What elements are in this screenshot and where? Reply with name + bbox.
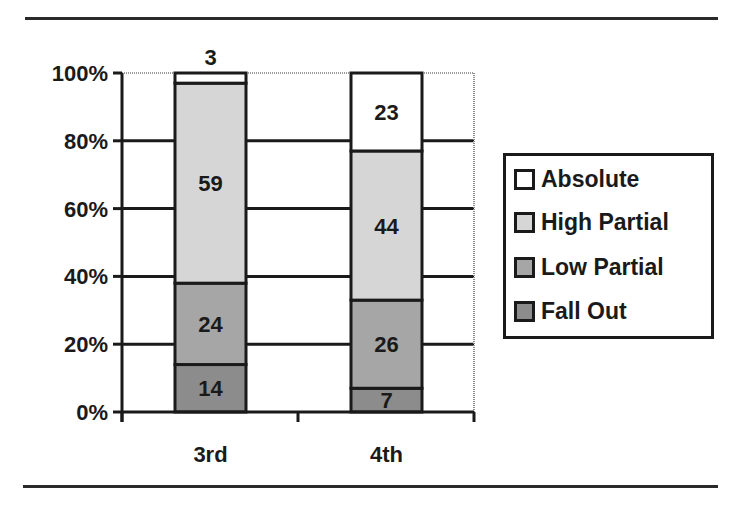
legend-swatch-fall-out	[514, 301, 535, 322]
value-label: 7	[380, 388, 392, 413]
y-tick-label: 40%	[64, 264, 108, 289]
legend-item-absolute: Absolute	[514, 164, 639, 194]
legend-label: Fall Out	[541, 298, 627, 325]
legend-swatch-absolute	[514, 169, 535, 190]
value-label: 26	[374, 332, 398, 357]
y-tick-label: 20%	[64, 332, 108, 357]
x-tick-label: 3rd	[193, 442, 227, 467]
y-tick-label: 0%	[76, 400, 108, 425]
bars: 14245937264423	[175, 45, 422, 413]
value-label: 59	[198, 171, 222, 196]
value-label: 23	[374, 100, 398, 125]
legend: Absolute High Partial Low Partial Fall O…	[503, 153, 714, 339]
y-tick-label: 80%	[64, 129, 108, 154]
legend-label: High Partial	[541, 209, 669, 236]
legend-label: Low Partial	[541, 254, 664, 281]
y-tick-label: 60%	[64, 197, 108, 222]
legend-label: Absolute	[541, 166, 639, 193]
x-axis-labels: 3rd4th	[193, 442, 403, 467]
legend-item-high-partial: High Partial	[514, 207, 669, 237]
legend-item-fall-out: Fall Out	[514, 296, 627, 326]
y-axis-labels: 0%20%40%60%80%100%	[52, 61, 108, 425]
x-tick-label: 4th	[370, 442, 403, 467]
value-label: 3	[204, 45, 216, 70]
value-label: 44	[374, 214, 399, 239]
value-label: 24	[198, 312, 223, 337]
y-tick-label: 100%	[52, 61, 108, 86]
legend-swatch-low-partial	[514, 257, 535, 278]
value-label: 14	[198, 376, 223, 401]
legend-item-low-partial: Low Partial	[514, 252, 664, 282]
bar-segment-absolute	[175, 73, 246, 83]
legend-swatch-high-partial	[514, 212, 535, 233]
